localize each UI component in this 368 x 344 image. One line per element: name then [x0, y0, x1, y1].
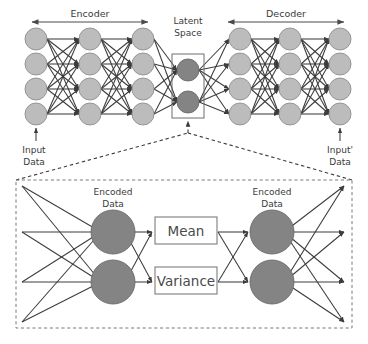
node-encoder-l1-3: [79, 103, 101, 125]
output-data-label-line1: Input': [327, 145, 353, 155]
node-detail-encoded-left-1: [91, 260, 135, 304]
node-decoder-l1-3: [279, 103, 301, 125]
node-encoder-l0-0: [25, 28, 47, 50]
node-decoder-l1-1: [279, 53, 301, 75]
detail-right-fan-edges: [284, 186, 344, 322]
node-decoder-l0-0: [229, 28, 251, 50]
node-decoder-l2-3: [329, 103, 351, 125]
node-encoder-l2-0: [132, 28, 154, 50]
node-latent-0: [177, 59, 199, 81]
node-decoder-l1-2: [279, 78, 301, 100]
detail-params-to-encoded-edges: [218, 232, 248, 282]
variance-label: Variance: [157, 273, 215, 289]
node-decoder-l2-0: [329, 28, 351, 50]
encoder-edges-layer1-layer2: [101, 39, 132, 114]
node-decoder-l0-2: [229, 78, 251, 100]
node-decoder-l0-3: [229, 103, 251, 125]
node-encoder-l2-1: [132, 53, 154, 75]
node-encoder-l0-2: [25, 78, 47, 100]
latent-space-label-line2: Space: [174, 28, 202, 38]
encoder-label: Encoder: [71, 8, 110, 19]
node-encoder-l1-2: [79, 78, 101, 100]
node-detail-encoded-right-1: [250, 260, 294, 304]
detail-encoded-right-label-line2: Data: [261, 199, 283, 209]
detail-encoded-left-label-line1: Encoded: [94, 187, 133, 197]
node-encoder-l2-2: [132, 78, 154, 100]
node-decoder-l0-1: [229, 53, 251, 75]
node-encoder-l1-0: [79, 28, 101, 50]
node-encoder-l0-3: [25, 103, 47, 125]
decoder-edges-layer1-layer2: [301, 39, 329, 114]
encoder-nodes: [25, 28, 154, 125]
node-decoder-l2-1: [329, 53, 351, 75]
decoder-label: Decoder: [266, 8, 306, 19]
zoom-connector-lines: [16, 121, 352, 180]
output-data-label-line2: Data: [329, 157, 351, 167]
node-decoder-l2-2: [329, 78, 351, 100]
node-detail-encoded-left-0: [91, 210, 135, 254]
encoder-edges-layer0-layer1: [47, 39, 79, 114]
detail-encoded-right-nodes: [250, 210, 294, 304]
latent-space-label-line1: Latent: [174, 16, 203, 26]
vae-diagram-canvas: Encoder Decoder Latent Space Input Data …: [0, 0, 368, 344]
detail-left-fan-edges: [22, 186, 101, 322]
node-encoder-l0-1: [25, 53, 47, 75]
node-decoder-l1-0: [279, 28, 301, 50]
node-encoder-l1-1: [79, 53, 101, 75]
latent-nodes: [177, 59, 199, 113]
input-data-label-line2: Data: [23, 157, 45, 167]
detail-encoded-left-nodes: [91, 210, 135, 304]
decoder-nodes: [229, 28, 351, 125]
node-detail-encoded-right-0: [250, 210, 294, 254]
encoder-edges-to-latent: [154, 39, 177, 114]
input-data-label-line1: Input: [22, 145, 46, 155]
decoder-edges-layer0-layer1: [251, 39, 279, 114]
vae-diagram: Encoder Decoder Latent Space Input Data …: [0, 0, 368, 344]
detail-encoded-right-label-line1: Encoded: [253, 187, 292, 197]
detail-encoded-left-label-line2: Data: [102, 199, 124, 209]
mean-label: Mean: [168, 223, 205, 239]
node-encoder-l2-3: [132, 103, 154, 125]
node-latent-1: [177, 91, 199, 113]
